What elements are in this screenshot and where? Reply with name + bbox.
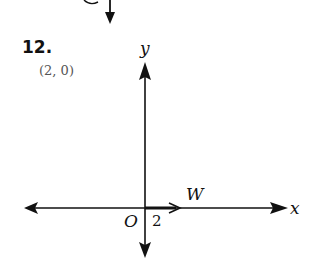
vector-w	[145, 203, 180, 213]
vector-label: W	[186, 184, 203, 204]
y-axis	[139, 62, 151, 258]
origin-label: O	[124, 211, 138, 231]
y-axis-label: y	[140, 38, 150, 58]
tick-label-2: 2	[152, 212, 162, 230]
previous-problem-fragment	[84, 0, 115, 24]
x-axis-label: x	[290, 198, 300, 218]
problem-number: 12.	[22, 37, 52, 57]
answer-text: (2, 0)	[39, 63, 74, 78]
